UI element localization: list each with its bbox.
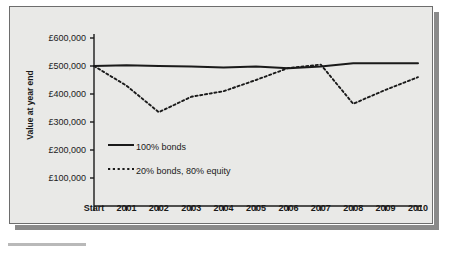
legend-label-100-bonds: 100% bonds [136, 142, 186, 152]
y-tick-label: £500,000 [48, 61, 86, 71]
x-tick-label: 2007 [311, 203, 331, 213]
x-tick-label: 2002 [149, 203, 169, 213]
footer-rule [8, 243, 86, 246]
chart-figure: Value at year end £100,000£200,000£300,0… [0, 0, 455, 258]
x-tick-label: 2010 [408, 203, 428, 213]
x-tick-label: 2003 [181, 203, 201, 213]
y-axis-tick-labels: £100,000£200,000£300,000£400,000£500,000… [34, 0, 86, 218]
x-tick-label: 2009 [376, 203, 396, 213]
x-tick-label: 2006 [278, 203, 298, 213]
x-tick-label: 2004 [214, 203, 234, 213]
y-tick-label: £600,000 [48, 33, 86, 43]
panel-shadow-right [434, 12, 439, 228]
y-tick-label: £400,000 [48, 89, 86, 99]
x-tick-label: Start [84, 203, 105, 213]
y-tick-label: £200,000 [48, 145, 86, 155]
x-tick-label: 2001 [116, 203, 136, 213]
x-tick-label: 2008 [343, 203, 363, 213]
y-tick-label: £100,000 [48, 173, 86, 183]
y-tick-label: £300,000 [48, 117, 86, 127]
x-tick-label: 2005 [246, 203, 266, 213]
legend-label-20-80: 20% bonds, 80% equity [136, 166, 231, 176]
panel-shadow-bottom [15, 225, 439, 230]
